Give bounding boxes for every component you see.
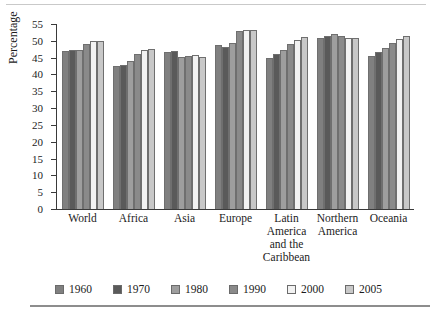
bar	[171, 51, 178, 209]
x-category-label: Africa	[108, 212, 159, 264]
y-tick: 35	[51, 91, 56, 92]
bar	[76, 50, 83, 209]
bar	[178, 57, 185, 209]
legend-swatch-icon	[345, 285, 354, 294]
y-tick: 25	[51, 125, 56, 126]
bar-group	[363, 24, 414, 209]
bar	[345, 38, 352, 209]
bar	[62, 51, 69, 209]
legend-label: 2000	[301, 284, 324, 296]
bar-group	[108, 24, 159, 209]
bar	[164, 52, 171, 209]
legend-label: 2005	[359, 284, 382, 296]
legend-item[interactable]: 1970	[113, 284, 150, 296]
legend-label: 1960	[69, 284, 92, 296]
bar	[148, 49, 155, 209]
bar	[396, 39, 403, 209]
bar	[83, 44, 90, 209]
y-tick-label: 10	[32, 170, 43, 181]
legend-swatch-icon	[171, 285, 180, 294]
bar	[185, 56, 192, 209]
legend-item[interactable]: 2005	[345, 284, 382, 296]
x-category-label: Asia	[159, 212, 210, 264]
x-category-label: Europe	[210, 212, 261, 264]
bar	[338, 36, 345, 209]
y-tick-label: 25	[32, 119, 43, 130]
y-tick: 0	[51, 209, 56, 210]
legend-item[interactable]: 2000	[287, 284, 324, 296]
bar	[127, 61, 134, 209]
y-tick: 15	[51, 159, 56, 160]
bar-group	[57, 24, 108, 209]
y-tick-label: 40	[32, 69, 43, 80]
bar	[331, 34, 338, 209]
bar	[243, 30, 250, 209]
y-tick-label: 0	[38, 204, 44, 215]
bar-group	[261, 24, 312, 209]
legend-swatch-icon	[113, 285, 122, 294]
bar	[403, 36, 410, 209]
chart-legend: 196019701980199020002005	[0, 284, 437, 296]
x-axis-category-labels: WorldAfricaAsiaEuropeLatinAmericaand the…	[57, 212, 414, 264]
bar	[280, 50, 287, 209]
y-axis-title: Percentage	[6, 11, 21, 64]
legend-item[interactable]: 1990	[229, 284, 266, 296]
bar-group	[312, 24, 363, 209]
legend-label: 1990	[243, 284, 266, 296]
top-rule	[6, 4, 426, 5]
y-tick: 55	[51, 24, 56, 25]
bottom-rule	[30, 305, 430, 307]
bar	[134, 54, 141, 209]
bar	[120, 65, 127, 209]
y-tick: 50	[51, 41, 56, 42]
y-tick-label: 5	[38, 187, 44, 198]
bar-groups	[57, 24, 414, 209]
bar	[229, 43, 236, 210]
y-tick-label: 30	[32, 103, 43, 114]
bar	[368, 56, 375, 209]
y-tick-label: 55	[32, 19, 43, 30]
y-tick-label: 20	[32, 136, 43, 147]
bar	[192, 55, 199, 209]
x-category-label: LatinAmericaand theCaribbean	[261, 212, 312, 264]
x-category-label: NorthernAmerica	[312, 212, 363, 264]
legend-item[interactable]: 1980	[171, 284, 208, 296]
bar	[287, 44, 294, 209]
bar	[199, 57, 206, 209]
bar	[389, 43, 396, 209]
y-tick: 10	[51, 175, 56, 176]
bar	[69, 50, 76, 209]
bar	[375, 52, 382, 209]
bar	[236, 31, 243, 209]
bar	[294, 40, 301, 209]
legend-item[interactable]: 1960	[55, 284, 92, 296]
y-tick: 40	[51, 74, 56, 75]
legend-label: 1980	[185, 284, 208, 296]
x-category-label: Oceania	[363, 212, 414, 264]
bar-group	[159, 24, 210, 209]
y-tick-label: 15	[32, 153, 43, 164]
bar	[141, 50, 148, 209]
legend-label: 1970	[127, 284, 150, 296]
y-tick-label: 45	[32, 52, 43, 63]
x-axis-line	[56, 209, 414, 210]
bar	[250, 30, 257, 209]
x-category-label: World	[57, 212, 108, 264]
bar	[352, 38, 359, 209]
bar-group	[210, 24, 261, 209]
legend-swatch-icon	[55, 285, 64, 294]
y-tick-label: 50	[32, 35, 43, 46]
bar	[90, 41, 97, 209]
legend-swatch-icon	[287, 285, 296, 294]
y-tick-label: 35	[32, 86, 43, 97]
bar	[382, 48, 389, 209]
bar	[215, 45, 222, 209]
bar	[324, 36, 331, 209]
y-tick: 45	[51, 58, 56, 59]
bar	[113, 66, 120, 209]
bar	[266, 58, 273, 209]
bar	[97, 41, 104, 209]
bar	[273, 54, 280, 209]
plot-area: 0510152025303540455055	[56, 24, 414, 209]
y-tick: 5	[51, 192, 56, 193]
